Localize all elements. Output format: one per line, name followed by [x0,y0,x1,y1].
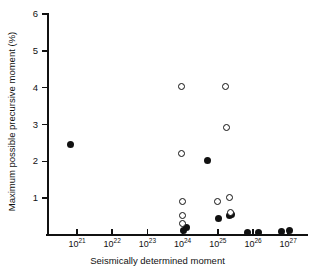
data-point-open-8 [226,194,233,201]
data-point-open-0 [178,83,185,90]
data-point-open-9 [227,209,234,216]
data-point-filled-0 [67,141,74,148]
x-tick-label-1e27: 1027 [280,239,297,249]
y-tick-label-2: 2 [24,156,38,166]
data-point-filled-4 [215,215,222,222]
data-point-open-3 [179,212,186,219]
x-tick-label-1e22: 1022 [104,239,121,249]
data-point-filled-10 [286,227,293,234]
data-point-open-2 [179,198,186,205]
x-tick-label-1e25: 1025 [209,239,226,249]
x-tick-label-1e24: 1024 [174,239,191,249]
data-point-filled-7 [244,229,251,236]
data-point-open-5 [214,198,221,205]
y-tick-label-1: 1 [24,193,38,203]
x-tick-label-1e26: 1026 [244,239,261,249]
y-tick-label-3: 3 [24,120,38,130]
y-tick-label-6: 6 [24,9,38,19]
data-point-open-1 [178,150,185,157]
data-point-filled-3 [204,157,211,164]
x-tick-label-1e21: 1021 [68,239,85,249]
x-tick-label-1e23: 1023 [139,239,156,249]
y-axis-label: Maximum possible precursive moment (%) [6,17,17,227]
data-point-filled-9 [278,228,285,235]
plot-area [47,14,315,235]
scatter-plot-figure: 123456 1021102210231024102510261027 Seis… [0,0,315,276]
data-point-open-6 [222,83,229,90]
y-tick-label-5: 5 [24,46,38,56]
y-tick-label-4: 4 [24,83,38,93]
data-point-open-7 [223,124,230,131]
x-axis-label: Seismically determined moment [0,255,315,266]
